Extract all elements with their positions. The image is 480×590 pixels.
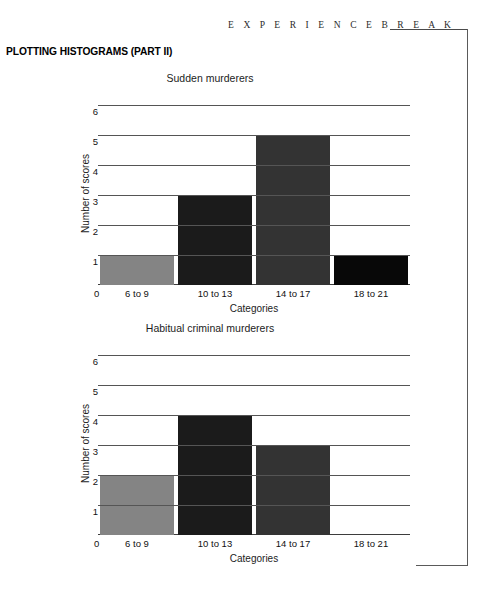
experience-break-header: E X P E R I E N C E B R E A K [200, 18, 480, 42]
y-tick-label: 1 [72, 257, 98, 267]
gridline [98, 105, 410, 106]
y-tick-label: 3 [72, 447, 98, 457]
gridline [98, 445, 410, 446]
y-tick-label: 1 [72, 507, 98, 517]
page-frame-bottom-rule [416, 565, 468, 566]
y-tick-label: 6 [72, 107, 98, 117]
y-tick-label: 6 [72, 357, 98, 367]
y-tick-label: 2 [72, 227, 98, 237]
section-heading: PLOTTING HISTOGRAMS (PART II) [6, 45, 172, 57]
gridline [98, 415, 410, 416]
x-tick-label: 10 to 13 [176, 538, 254, 549]
y-tick-label: 2 [72, 477, 98, 487]
bar [178, 195, 252, 285]
gridline [98, 135, 410, 136]
gridline [98, 475, 410, 476]
bar [100, 255, 174, 285]
gridline [98, 165, 410, 166]
y-tick-label: 5 [72, 387, 98, 397]
gridline [98, 255, 410, 256]
x-tick-label: 6 to 9 [98, 288, 176, 299]
x-tick-label: 14 to 17 [254, 288, 332, 299]
x-axis-title: Categories [98, 553, 410, 564]
x-tick-label: 10 to 13 [176, 288, 254, 299]
y-tick-label: 5 [72, 137, 98, 147]
gridline [98, 195, 410, 196]
y-tick-label: 4 [72, 167, 98, 177]
y-tick-label: 3 [72, 197, 98, 207]
gridline [98, 385, 410, 386]
x-tick-label: 14 to 17 [254, 538, 332, 549]
plot-area: Number of scores12345606 to 910 to 1314 … [98, 105, 410, 285]
y-tick-label: 4 [72, 417, 98, 427]
experience-break-rule [390, 29, 467, 30]
bar [256, 135, 330, 285]
x-axis-title: Categories [98, 303, 410, 314]
chart-title: Habitual criminal murderers [0, 322, 420, 334]
gridline [98, 355, 410, 356]
gridline [98, 225, 410, 226]
page-frame-vertical-rule [467, 29, 468, 566]
page-canvas: E X P E R I E N C E B R E A K PLOTTING H… [0, 0, 480, 590]
x-tick-label: 18 to 21 [332, 288, 410, 299]
chart-title: Sudden murderers [0, 72, 420, 84]
bar [256, 445, 330, 535]
bar [334, 255, 408, 285]
gridline [98, 505, 410, 506]
plot-area: Number of scores12345606 to 910 to 1314 … [98, 355, 410, 535]
x-tick-label: 18 to 21 [332, 538, 410, 549]
x-tick-label: 6 to 9 [98, 538, 176, 549]
